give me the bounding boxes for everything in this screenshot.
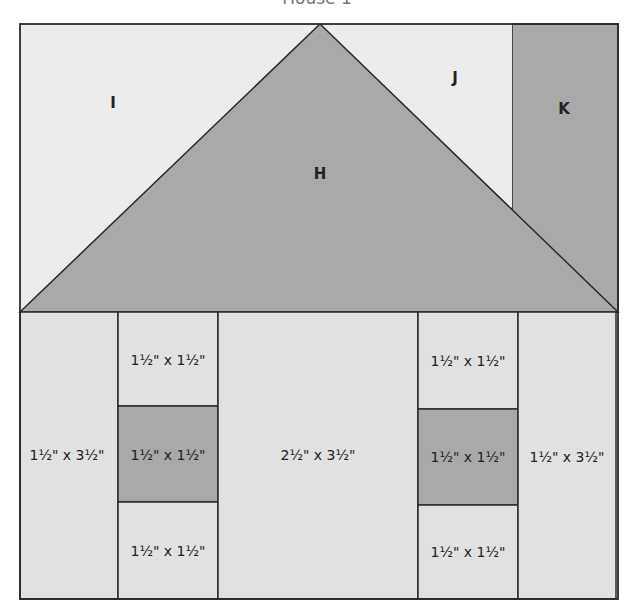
- right-wall-dimension: 1½" x 3½": [529, 449, 604, 465]
- label-k: K: [558, 100, 571, 118]
- left-window-middle-dimension: 1½" x 1½": [130, 447, 205, 463]
- left-window-top-dimension: 1½" x 1½": [130, 352, 205, 368]
- left-wall-dimension: 1½" x 3½": [29, 447, 104, 463]
- label-j: J: [451, 69, 458, 87]
- label-h: H: [314, 165, 327, 183]
- right-window-bottom-dimension: 1½" x 1½": [430, 544, 505, 560]
- right-window-middle-dimension: 1½" x 1½": [430, 449, 505, 465]
- quilt-block-diagram: I H J K 1½" x 3½" 1½" x 1½" 1½" x 1½" 1½…: [0, 0, 634, 609]
- right-window-top-dimension: 1½" x 1½": [430, 353, 505, 369]
- label-i: I: [110, 94, 116, 112]
- center-wall-dimension: 2½" x 3½": [280, 447, 355, 463]
- left-window-bottom-dimension: 1½" x 1½": [130, 543, 205, 559]
